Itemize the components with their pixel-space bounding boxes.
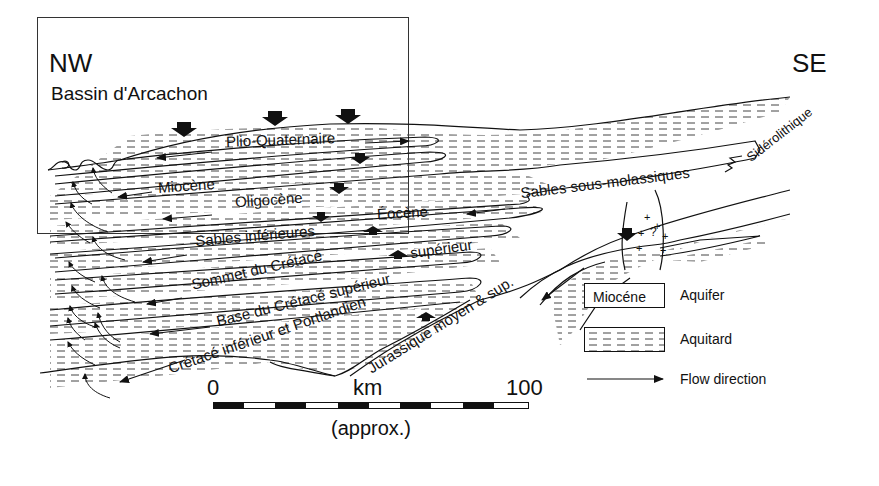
direction-nw: NW xyxy=(49,50,92,76)
svg-text:+: + xyxy=(644,211,650,223)
scale-start: 0 xyxy=(207,377,219,399)
legend-aquifer-label: Aquifer xyxy=(680,288,724,302)
legend-aquitard-swatch xyxy=(585,328,665,352)
legend-aquitard-label: Aquitard xyxy=(680,332,732,346)
scale-bar xyxy=(213,402,529,409)
recharge-arrow xyxy=(335,109,361,124)
svg-text:+: + xyxy=(636,242,642,254)
scale-end: 100 xyxy=(506,377,543,399)
hydrogeologic-cross-section: + + + + + + NW SE Bassin d'Arcachon Plio… xyxy=(0,0,879,486)
unit-label-miocene: Miocène xyxy=(158,176,216,195)
scale-note: (approx.) xyxy=(331,418,411,438)
svg-text:+: + xyxy=(660,244,666,256)
svg-text:+: + xyxy=(662,230,668,242)
scale-unit: km xyxy=(353,377,382,399)
legend-aquifer-sample: Miocéne xyxy=(593,290,646,304)
svg-text:+: + xyxy=(638,227,644,239)
recharge-arrow xyxy=(262,111,288,126)
unit-label-plio-quaternaire: Plio-Quaternaire xyxy=(226,130,336,149)
direction-se: SE xyxy=(792,50,827,76)
unit-label-eocene: Éocène xyxy=(377,204,429,222)
legend-flow-label: Flow direction xyxy=(680,372,766,386)
basement-uncertain-mark: ? xyxy=(650,226,657,238)
basin-label: Bassin d'Arcachon xyxy=(51,84,208,103)
